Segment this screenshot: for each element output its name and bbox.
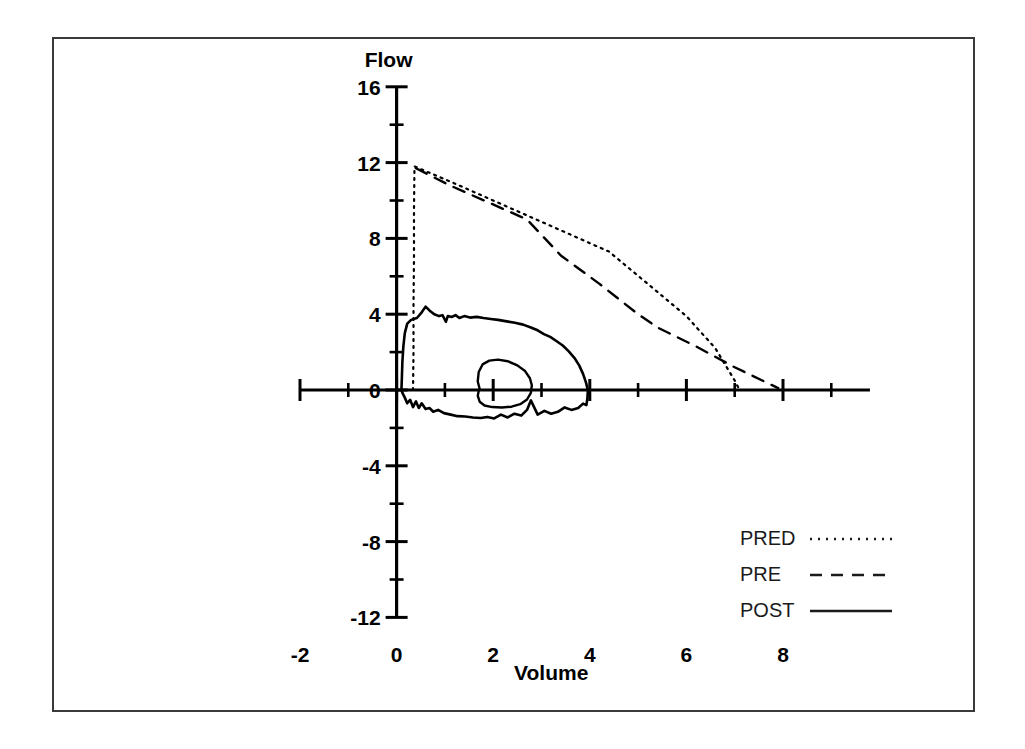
- y-tick-label: 0: [369, 379, 381, 402]
- chart-page: 1612840-4-8-12-202468FlowVolumePREDPREPO…: [0, 0, 1025, 749]
- series-pre-curve: [416, 168, 778, 388]
- y-tick-label: -8: [362, 531, 381, 554]
- x-tick-label: 2: [487, 643, 499, 666]
- y-axis-title: Flow: [365, 48, 413, 71]
- legend-label-pre: PRE: [740, 563, 781, 585]
- x-tick-label: 0: [391, 643, 403, 666]
- y-tick-label: 12: [357, 152, 380, 175]
- x-tick-label: 6: [681, 643, 693, 666]
- flow-volume-loop-chart: 1612840-4-8-12-202468FlowVolumePREDPREPO…: [0, 0, 1025, 749]
- y-tick-label: 4: [369, 303, 381, 326]
- y-tick-label: -4: [362, 455, 381, 478]
- y-tick-label: -12: [350, 606, 380, 629]
- y-tick-label: 8: [369, 227, 381, 250]
- x-axis-title: Volume: [514, 661, 588, 684]
- series-post-expiratory-limb: [401, 307, 587, 390]
- series-pred-curve: [413, 166, 740, 390]
- x-tick-label: -2: [291, 643, 310, 666]
- x-tick-label: 8: [777, 643, 789, 666]
- series-post-tidal-loop: [478, 360, 532, 408]
- y-tick-label: 16: [357, 76, 380, 99]
- legend-label-pred: PRED: [740, 527, 796, 549]
- legend-label-post: POST: [740, 599, 794, 621]
